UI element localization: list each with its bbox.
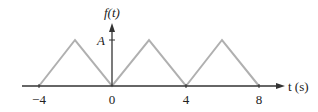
- amplitude-label: A: [96, 33, 105, 48]
- triangular-signal: [39, 40, 259, 86]
- x-axis-label: t (s): [288, 79, 309, 94]
- tick-label-8: 8: [256, 92, 263, 107]
- triangular-wave-diagram: f(t) A t (s) −4 0 4 8: [0, 0, 318, 112]
- tick-label-neg4: −4: [32, 92, 46, 107]
- y-axis-label: f(t): [104, 5, 120, 20]
- tick-label-4: 4: [183, 92, 190, 107]
- tick-label-0: 0: [109, 92, 116, 107]
- y-axis-arrow-icon: [109, 23, 115, 32]
- x-axis-arrow-icon: [276, 83, 285, 89]
